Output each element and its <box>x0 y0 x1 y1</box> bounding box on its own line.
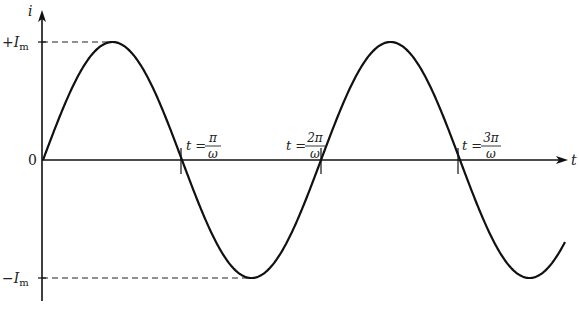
zero-label: 0 <box>28 152 37 168</box>
svg-text:ω: ω <box>310 147 320 161</box>
y-axis-label: i <box>28 3 32 19</box>
svg-text:t =: t = <box>286 138 306 153</box>
annotation-pi: t = π ω <box>186 131 221 161</box>
svg-text:3π: 3π <box>483 131 500 145</box>
svg-text:t =: t = <box>186 138 206 153</box>
max-label: +Im <box>2 34 29 52</box>
svg-text:t =: t = <box>462 138 482 153</box>
svg-text:π: π <box>208 131 218 145</box>
annotation-3pi: t = 3π ω <box>462 131 501 161</box>
sine-diagram: i t +Im 0 −Im t = π ω t = 2π ω t = 3π ω <box>0 0 579 316</box>
annotation-2pi: t = 2π ω <box>286 131 325 161</box>
min-label: −Im <box>2 270 29 288</box>
svg-text:2π: 2π <box>306 131 324 145</box>
x-axis-label: t <box>571 152 577 168</box>
svg-text:ω: ω <box>486 147 496 161</box>
svg-text:ω: ω <box>208 147 218 161</box>
